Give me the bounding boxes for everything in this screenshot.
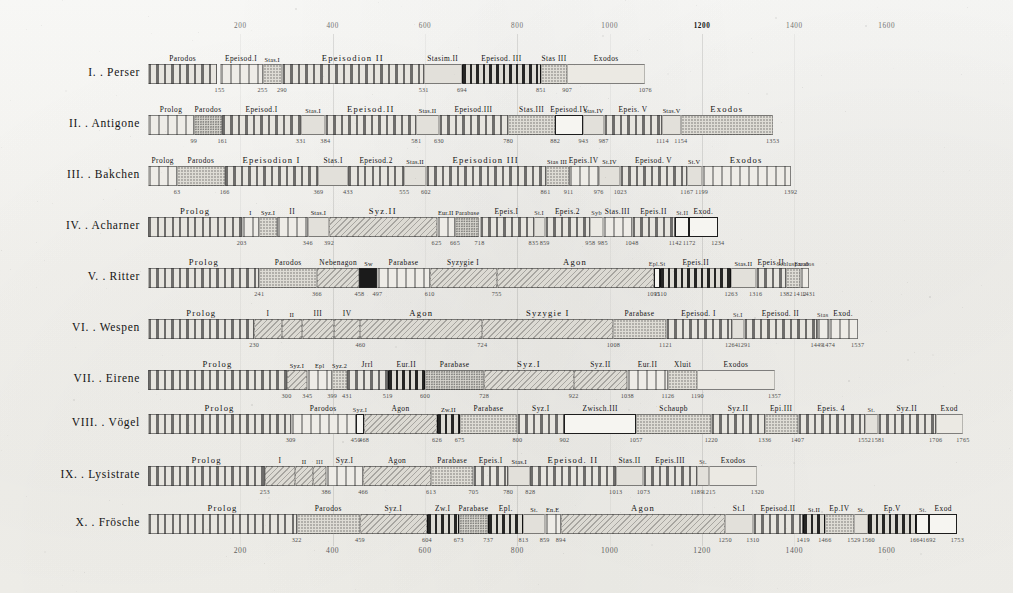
drama-segment[interactable] [484, 370, 574, 390]
drama-segment[interactable] [222, 115, 300, 135]
drama-segment[interactable] [326, 466, 363, 486]
drama-segment[interactable] [482, 319, 613, 339]
drama-segment[interactable] [702, 166, 791, 186]
drama-segment[interactable] [307, 370, 332, 390]
drama-segment[interactable] [825, 514, 854, 534]
drama-segment[interactable] [356, 414, 364, 434]
drama-segment[interactable] [426, 166, 546, 186]
drama-segment[interactable] [555, 115, 583, 135]
drama-segment[interactable] [627, 370, 668, 390]
drama-segment[interactable] [282, 64, 424, 84]
drama-segment[interactable] [148, 217, 241, 237]
drama-segment[interactable] [148, 268, 259, 288]
drama-segment[interactable] [666, 319, 732, 339]
drama-segment[interactable] [359, 268, 377, 288]
drama-segment[interactable] [916, 514, 929, 534]
drama-segment[interactable] [388, 370, 425, 390]
drama-segment[interactable] [430, 268, 497, 288]
drama-segment[interactable] [604, 115, 663, 135]
drama-segment[interactable] [148, 514, 296, 534]
drama-segment[interactable] [545, 514, 561, 534]
drama-segment[interactable] [148, 466, 264, 486]
drama-segment[interactable] [317, 268, 359, 288]
drama-segment[interactable] [302, 319, 334, 339]
drama-segment[interactable] [277, 217, 308, 237]
drama-segment[interactable] [437, 414, 460, 434]
drama-segment[interactable] [854, 514, 868, 534]
drama-segment[interactable] [242, 217, 260, 237]
drama-segment[interactable] [643, 466, 697, 486]
drama-segment[interactable] [546, 166, 569, 186]
drama-segment[interactable] [786, 268, 800, 288]
drama-segment[interactable] [360, 319, 482, 339]
drama-segment[interactable] [318, 166, 348, 186]
drama-segment[interactable] [301, 115, 325, 135]
drama-segment[interactable] [424, 64, 462, 84]
drama-segment[interactable] [756, 268, 786, 288]
drama-segment[interactable] [425, 370, 484, 390]
drama-segment[interactable] [148, 370, 286, 390]
drama-segment[interactable] [259, 217, 277, 237]
drama-segment[interactable] [541, 64, 567, 84]
drama-segment[interactable] [660, 268, 731, 288]
drama-segment[interactable] [654, 268, 661, 288]
drama-segment[interactable] [765, 414, 798, 434]
drama-segment[interactable] [687, 166, 702, 186]
drama-segment[interactable] [148, 64, 216, 84]
drama-segment[interactable] [632, 217, 675, 237]
drama-segment[interactable] [662, 115, 680, 135]
drama-segment[interactable] [878, 414, 936, 434]
drama-segment[interactable] [148, 115, 193, 135]
drama-segment[interactable] [603, 217, 632, 237]
drama-segment[interactable] [508, 115, 555, 135]
drama-segment[interactable] [936, 414, 963, 434]
drama-segment[interactable] [534, 217, 545, 237]
drama-segment[interactable] [564, 414, 636, 434]
drama-segment[interactable] [308, 217, 329, 237]
drama-segment[interactable] [473, 466, 508, 486]
drama-segment[interactable] [404, 166, 426, 186]
drama-segment[interactable] [360, 514, 427, 534]
drama-segment[interactable] [282, 319, 302, 339]
drama-segment[interactable] [194, 115, 223, 135]
drama-segment[interactable] [480, 217, 534, 237]
drama-segment[interactable] [523, 514, 544, 534]
drama-segment[interactable] [220, 64, 263, 84]
drama-segment[interactable] [225, 166, 319, 186]
drama-segment[interactable] [332, 370, 347, 390]
drama-segment[interactable] [929, 514, 957, 534]
drama-segment[interactable] [744, 319, 817, 339]
drama-segment[interactable] [254, 319, 282, 339]
drama-segment[interactable] [731, 268, 755, 288]
drama-segment[interactable] [347, 370, 388, 390]
drama-segment[interactable] [297, 514, 360, 534]
drama-segment[interactable] [668, 370, 698, 390]
drama-segment[interactable] [148, 319, 254, 339]
drama-segment[interactable] [455, 217, 479, 237]
drama-segment[interactable] [488, 514, 523, 534]
drama-segment[interactable] [363, 466, 431, 486]
drama-segment[interactable] [313, 466, 326, 486]
drama-segment[interactable] [545, 217, 591, 237]
drama-segment[interactable] [711, 414, 765, 434]
drama-segment[interactable] [599, 166, 621, 186]
drama-segment[interactable] [265, 466, 295, 486]
drama-segment[interactable] [148, 166, 177, 186]
drama-segment[interactable] [497, 268, 654, 288]
drama-segment[interactable] [325, 115, 416, 135]
drama-segment[interactable] [416, 115, 439, 135]
drama-segment[interactable] [431, 466, 473, 486]
drama-segment[interactable] [437, 217, 455, 237]
drama-segment[interactable] [817, 319, 829, 339]
drama-segment[interactable] [287, 370, 308, 390]
drama-segment[interactable] [574, 370, 628, 390]
drama-segment[interactable] [567, 64, 645, 84]
drama-segment[interactable] [530, 466, 615, 486]
drama-segment[interactable] [569, 166, 599, 186]
drama-segment[interactable] [689, 217, 718, 237]
drama-segment[interactable] [348, 166, 404, 186]
drama-segment[interactable] [636, 414, 711, 434]
drama-segment[interactable] [798, 414, 865, 434]
drama-segment[interactable] [177, 166, 225, 186]
drama-segment[interactable] [868, 514, 916, 534]
